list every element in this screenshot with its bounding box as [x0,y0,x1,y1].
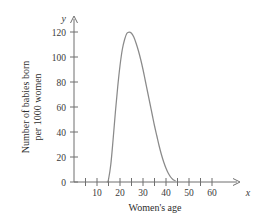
birth-rate-chart: 0 20 40 60 80 100 120 y 10 20 30 40 50 6… [0,0,260,224]
y-axis-title: Number of babies born per 1000 women [20,61,43,153]
x-tick-label-30: 30 [138,188,148,198]
y-axis-title-line-2: per 1000 women [32,73,43,140]
y-tick-label-120: 120 [52,28,67,38]
y-tick-label-0: 0 [61,178,66,188]
y-axis-title-line-1: Number of babies born [20,61,31,153]
x-tick-label-20: 20 [115,188,125,198]
x-tick-label-60: 60 [207,188,217,198]
x-axis-title: Women's age [129,202,182,213]
x-tick-label-10: 10 [92,188,102,198]
y-tick-label-20: 20 [57,153,67,163]
y-tick-label-40: 40 [57,128,67,138]
y-tick-label-80: 80 [57,78,67,88]
y-axis-variable-label: y [61,13,67,24]
x-tick-label-50: 50 [184,188,194,198]
x-axis-variable-label: x [245,187,251,198]
y-tick-label-60: 60 [57,103,67,113]
y-tick-label-100: 100 [52,53,67,63]
x-tick-label-40: 40 [161,188,171,198]
